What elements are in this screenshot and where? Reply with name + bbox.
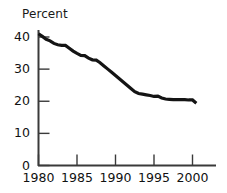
- x-axis-tick-label: 2000: [173, 170, 213, 185]
- y-axis-ticks: [39, 37, 50, 166]
- x-axis-tick-label: 1995: [134, 170, 174, 185]
- x-axis-tick-label: 1980: [19, 170, 59, 185]
- y-axis-tick-label: 30: [4, 61, 30, 76]
- x-axis-tick-label: 1990: [96, 170, 136, 185]
- y-axis-tick-label: 20: [4, 93, 30, 108]
- data-series-group: [39, 34, 197, 103]
- x-axis-tick-label: 1985: [57, 170, 97, 185]
- axis-lines: [38, 30, 216, 166]
- y-axis-tick-label: 10: [4, 125, 30, 140]
- plot-area: [0, 0, 227, 193]
- chart-container: Percent 010203040 19801985199019952000: [0, 0, 227, 193]
- x-axis-ticks: [39, 155, 193, 166]
- data-line-0: [39, 34, 197, 103]
- y-axis-tick-label: 40: [4, 29, 30, 44]
